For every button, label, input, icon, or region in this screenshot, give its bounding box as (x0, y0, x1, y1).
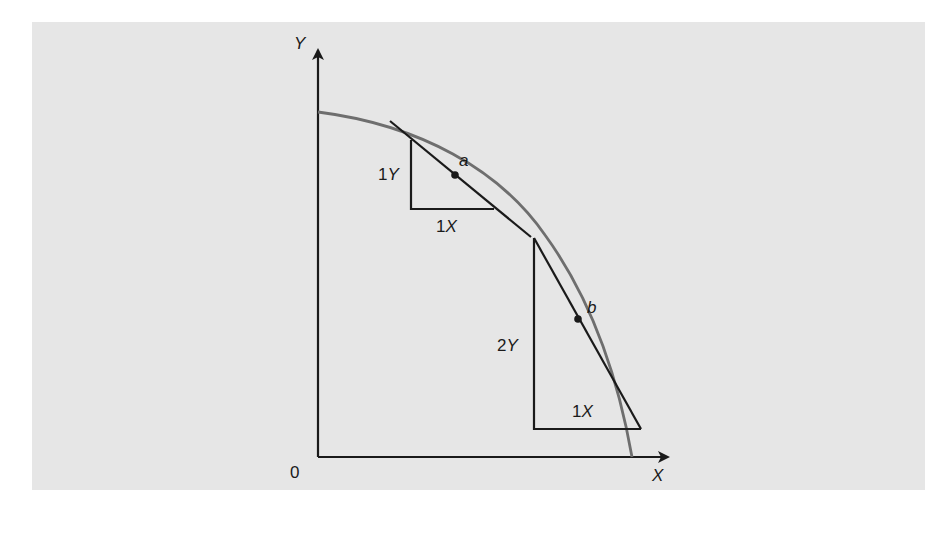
triangle-a-run-label: 1X (436, 218, 457, 235)
triangle-a-rise-label: 1Y (378, 166, 399, 183)
y-axis-label: Y (294, 35, 305, 52)
triangle-b-run-label: 1X (572, 403, 593, 420)
x-axis-label: X (652, 467, 663, 484)
point-a-marker (451, 171, 459, 179)
tangent-line-b (534, 238, 641, 429)
point-b-label: b (587, 299, 596, 316)
ppf-diagram (0, 0, 948, 539)
point-b-marker (574, 315, 582, 323)
rise-variable: Y (506, 336, 517, 355)
triangle-b-rise-label: 2Y (497, 337, 518, 354)
point-a-label: a (459, 152, 468, 169)
run-variable: X (445, 217, 456, 236)
origin-label: 0 (290, 464, 299, 481)
rise-variable: Y (387, 165, 398, 184)
run-variable: X (581, 402, 592, 421)
